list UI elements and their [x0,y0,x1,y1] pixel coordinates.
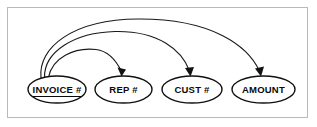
dependency-arrows-group [41,19,264,78]
arrow-path [41,19,260,78]
screenshot-root: INVOICE # REP # CUST # AMOUNT [0,0,317,127]
node-label: CUST # [175,84,210,95]
arrow-invoice-to-rep[interactable] [49,49,127,77]
attribute-nodes-group: INVOICE # REP # CUST # AMOUNT [28,76,295,103]
arrow-path [49,49,122,77]
arrowhead-icon [185,67,194,77]
arrowhead-icon [255,67,264,77]
node-amount[interactable]: AMOUNT [232,76,295,103]
arrow-invoice-to-amount[interactable] [41,19,264,78]
node-cust-number[interactable]: CUST # [162,76,222,103]
node-invoice-number[interactable]: INVOICE # [28,76,86,103]
functional-dependency-diagram: INVOICE # REP # CUST # AMOUNT [0,0,317,127]
node-rep-number[interactable]: REP # [95,76,152,103]
node-label: AMOUNT [242,84,285,95]
node-label: INVOICE # [33,84,82,95]
arrowhead-icon [118,68,127,77]
node-label: REP # [109,84,138,95]
